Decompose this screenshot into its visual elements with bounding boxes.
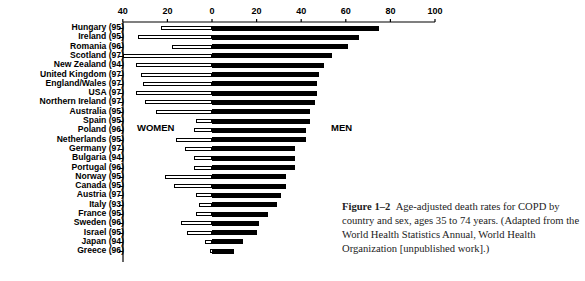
y-tick — [119, 158, 123, 159]
women-bar — [196, 193, 212, 197]
men-bar — [212, 184, 286, 189]
y-tick — [119, 112, 123, 113]
y-tick — [119, 195, 123, 196]
women-bar — [181, 221, 212, 225]
y-tick — [119, 37, 123, 38]
women-bar — [138, 35, 212, 39]
women-bar — [136, 91, 212, 95]
x-tick-label: 80 — [385, 6, 395, 16]
figure-number: Figure 1–2 — [342, 201, 390, 212]
men-bar — [212, 63, 324, 68]
figure-caption: Figure 1–2 Age-adjusted death rates for … — [342, 200, 582, 256]
women-bar — [143, 82, 212, 86]
y-tick — [119, 28, 123, 29]
y-tick — [119, 121, 123, 122]
x-tick-label: 0 — [209, 6, 214, 16]
women-bar — [145, 100, 212, 104]
y-tick — [119, 214, 123, 215]
country-label: Poland (96) — [78, 125, 124, 134]
men-label: MEN — [331, 122, 352, 133]
y-tick — [119, 47, 123, 48]
men-bar — [212, 128, 306, 133]
y-tick — [119, 177, 123, 178]
women-bar — [196, 212, 212, 216]
women-bar — [176, 138, 212, 142]
men-bar — [212, 174, 286, 179]
women-bar — [174, 184, 212, 188]
x-tick-label: 20 — [162, 6, 172, 16]
y-tick — [119, 75, 123, 76]
men-bar — [212, 53, 332, 58]
men-bar — [212, 81, 317, 86]
men-bar — [212, 202, 277, 207]
men-bar — [212, 239, 243, 244]
women-bar — [194, 166, 212, 170]
women-bar — [136, 63, 212, 67]
men-bar — [212, 165, 295, 170]
women-bar — [185, 147, 212, 151]
y-tick — [119, 233, 123, 234]
men-bar — [212, 146, 295, 151]
y-tick — [119, 242, 123, 243]
women-bar — [172, 45, 212, 49]
women-label: WOMEN — [137, 122, 174, 133]
men-bar — [212, 221, 259, 226]
men-bar — [212, 109, 310, 114]
women-bar — [156, 110, 212, 114]
women-bar — [194, 128, 212, 132]
women-bar — [199, 203, 212, 207]
women-bar — [205, 240, 212, 244]
women-bar — [187, 231, 212, 235]
women-bar — [123, 54, 212, 58]
y-tick — [119, 84, 123, 85]
men-bar — [212, 249, 234, 254]
country-label: Greece (96) — [77, 246, 124, 255]
y-tick — [119, 93, 123, 94]
men-bar — [212, 26, 379, 31]
y-tick — [119, 186, 123, 187]
x-tick-label: 20 — [252, 6, 262, 16]
men-bar — [212, 230, 257, 235]
men-bar — [212, 137, 306, 142]
y-tick — [119, 251, 123, 252]
women-bar — [161, 26, 212, 30]
y-tick — [119, 223, 123, 224]
y-tick — [119, 205, 123, 206]
y-tick — [119, 168, 123, 169]
x-tick-label: 60 — [341, 6, 351, 16]
country-label: Ireland (95) — [78, 32, 124, 41]
men-bar — [212, 100, 315, 105]
x-tick-label: 40 — [118, 6, 128, 16]
men-bar — [212, 156, 295, 161]
y-tick — [119, 65, 123, 66]
y-tick — [119, 102, 123, 103]
men-bar — [212, 44, 348, 49]
x-tick-label: 40 — [296, 6, 306, 16]
women-bar — [165, 175, 212, 179]
women-bar — [194, 156, 212, 160]
men-bar — [212, 91, 317, 96]
men-bar — [212, 119, 310, 124]
men-bar — [212, 212, 268, 217]
y-tick — [119, 140, 123, 141]
men-bar — [212, 35, 359, 40]
x-tick-label: 100 — [427, 6, 442, 16]
women-bar — [196, 119, 212, 123]
men-bar — [212, 72, 319, 77]
y-tick — [119, 149, 123, 150]
country-label: New Zealand (94) — [54, 60, 124, 69]
men-bar — [212, 193, 281, 198]
country-label: Bulgaria (94) — [72, 153, 124, 162]
y-tick — [119, 130, 123, 131]
women-bar — [141, 73, 212, 77]
country-label: Sweden (96) — [74, 218, 124, 227]
